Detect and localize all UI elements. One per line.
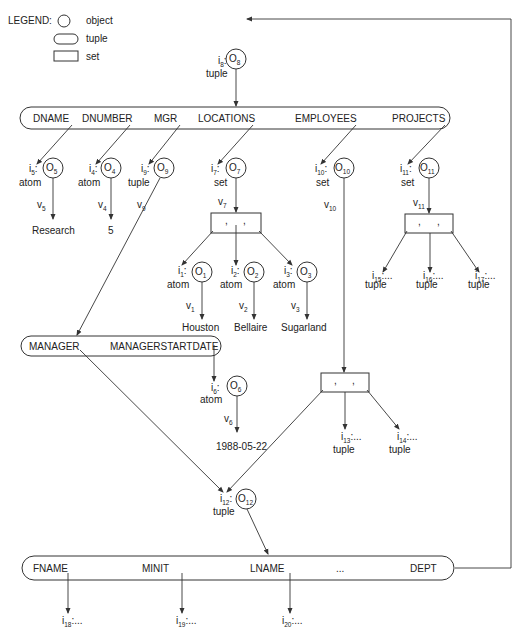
svg-text:set: set bbox=[214, 177, 228, 188]
svg-text:v1: v1 bbox=[186, 300, 195, 313]
svg-text:v5: v5 bbox=[37, 199, 46, 212]
svg-text:atom: atom bbox=[167, 279, 189, 290]
legend-tuple-label: tuple bbox=[86, 33, 108, 44]
svg-text:set: set bbox=[401, 177, 415, 188]
ref-i16: i16:... tuple bbox=[416, 270, 444, 290]
svg-text:i7:: i7: bbox=[211, 163, 220, 176]
svg-text:Houston: Houston bbox=[182, 322, 219, 333]
root-type: tuple bbox=[206, 68, 228, 79]
svg-text:...: ... bbox=[336, 563, 344, 574]
svg-text:i3:: i3: bbox=[284, 265, 293, 278]
legend-object-icon bbox=[58, 15, 70, 27]
legend-tuple-icon bbox=[54, 34, 78, 44]
svg-text:atom: atom bbox=[220, 279, 242, 290]
department-tuple: DNAME DNUMBER MGR LOCATIONS EMPLOYEES PR… bbox=[20, 107, 450, 129]
object-o3: i3: atom O3 v3 Sugarland bbox=[273, 262, 327, 333]
object-o12: i12: tuple O12 bbox=[213, 489, 268, 554]
root-object-o8: i8: tuple O8 bbox=[206, 49, 246, 79]
svg-text:v11: v11 bbox=[413, 197, 425, 210]
svg-text:Bellaire: Bellaire bbox=[234, 322, 268, 333]
svg-text:tuple: tuple bbox=[416, 279, 438, 290]
manager-tuple: MANAGER MANAGERSTARTDATE bbox=[21, 336, 221, 356]
svg-text:MINIT: MINIT bbox=[142, 563, 169, 574]
object-o4: i4: atom O4 v4 5 bbox=[78, 158, 121, 236]
svg-text:i4:: i4: bbox=[89, 163, 98, 176]
value-5: 5 bbox=[108, 225, 114, 236]
svg-text:FNAME: FNAME bbox=[33, 563, 68, 574]
object-o7: i7: set O7 v7 bbox=[211, 158, 246, 212]
svg-text:,: , bbox=[243, 215, 246, 226]
ref-i15: i15:... tuple bbox=[365, 270, 393, 290]
svg-text:i19:...: i19:... bbox=[176, 615, 197, 628]
value-research: Research bbox=[32, 225, 75, 236]
svg-text:v6: v6 bbox=[224, 413, 233, 426]
legend-title: LEGEND: bbox=[8, 15, 52, 26]
svg-text:i10:: i10: bbox=[315, 163, 327, 176]
ref-i17: i17:... tuple bbox=[468, 270, 496, 290]
svg-text:v4: v4 bbox=[98, 199, 107, 212]
svg-text:Sugarland: Sugarland bbox=[281, 322, 327, 333]
svg-text:tuple: tuple bbox=[213, 506, 235, 517]
svg-text:,: , bbox=[352, 375, 355, 386]
legend-set-icon bbox=[54, 51, 78, 61]
legend-object-label: object bbox=[86, 15, 113, 26]
object-o11: i11: set O11 v11 bbox=[400, 158, 439, 213]
svg-text:tuple: tuple bbox=[468, 279, 490, 290]
svg-text:set: set bbox=[316, 177, 330, 188]
attr-locations: LOCATIONS bbox=[198, 113, 255, 124]
employee-tuple: FNAME MINIT LNAME ... DEPT bbox=[22, 556, 454, 580]
svg-text:,: , bbox=[437, 216, 440, 227]
svg-text:atom: atom bbox=[78, 177, 100, 188]
svg-text:,: , bbox=[334, 375, 337, 386]
svg-text:atom: atom bbox=[19, 177, 41, 188]
attr-dnumber: DNUMBER bbox=[82, 113, 133, 124]
svg-text:v3: v3 bbox=[291, 300, 300, 313]
svg-text:atom: atom bbox=[273, 279, 295, 290]
svg-text:i1:: i1: bbox=[178, 265, 187, 278]
ref-i18: i18:... bbox=[62, 615, 83, 628]
svg-text:i13:...: i13:... bbox=[341, 431, 362, 444]
svg-text:i8:: i8: bbox=[218, 55, 227, 68]
svg-text:v9: v9 bbox=[137, 199, 146, 212]
ref-i20: i20:... bbox=[282, 615, 303, 628]
svg-text:i20:...: i20:... bbox=[282, 615, 303, 628]
svg-text:v2: v2 bbox=[239, 300, 248, 313]
svg-text:i2:: i2: bbox=[231, 265, 240, 278]
svg-text:MANAGER: MANAGER bbox=[29, 341, 80, 352]
svg-text:atom: atom bbox=[200, 394, 222, 405]
svg-text:i14:...: i14:... bbox=[397, 431, 418, 444]
ref-i19: i19:... bbox=[176, 615, 197, 628]
svg-text:MANAGERSTARTDATE: MANAGERSTARTDATE bbox=[110, 341, 219, 352]
attr-dname: DNAME bbox=[33, 113, 69, 124]
svg-text:i12:: i12: bbox=[220, 493, 232, 506]
projects-set: , , bbox=[405, 214, 453, 233]
attr-projects: PROJECTS bbox=[392, 113, 446, 124]
svg-text:LNAME: LNAME bbox=[250, 563, 285, 574]
svg-text:tuple: tuple bbox=[389, 444, 411, 455]
object-o6: i6: atom O6 v6 1988-05-22 bbox=[200, 376, 268, 452]
svg-text:DEPT: DEPT bbox=[410, 563, 437, 574]
object-graph-diagram: LEGEND: object tuple set i8: tuple O8 DN… bbox=[0, 0, 522, 633]
svg-text:1988-05-22: 1988-05-22 bbox=[216, 441, 268, 452]
legend: LEGEND: object tuple set bbox=[8, 15, 113, 62]
svg-text:v10: v10 bbox=[324, 199, 337, 212]
svg-text:tuple: tuple bbox=[365, 279, 387, 290]
svg-text:i9:: i9: bbox=[141, 163, 150, 176]
svg-text:v7: v7 bbox=[218, 196, 227, 209]
employees-set: , , bbox=[321, 373, 369, 392]
ref-i13: i13:... tuple bbox=[333, 431, 362, 455]
svg-text:i11:: i11: bbox=[400, 163, 412, 176]
ref-i14: i14:... tuple bbox=[389, 431, 418, 455]
attr-employees: EMPLOYEES bbox=[295, 113, 357, 124]
object-o1: i1: atom O1 v1 Houston bbox=[167, 262, 219, 333]
object-o2: i2: atom O2 v2 Bellaire bbox=[220, 262, 268, 333]
object-o5: i5: atom O5 v5 Research bbox=[19, 158, 75, 236]
svg-text:i18:...: i18:... bbox=[62, 615, 83, 628]
svg-text:,: , bbox=[418, 216, 421, 227]
svg-text:,: , bbox=[225, 215, 228, 226]
object-o10: i10: set O10 v10 bbox=[315, 158, 354, 372]
attr-mgr: MGR bbox=[154, 113, 177, 124]
svg-text:tuple: tuple bbox=[333, 444, 355, 455]
svg-text:tuple: tuple bbox=[128, 177, 150, 188]
svg-text:i5:: i5: bbox=[29, 163, 38, 176]
